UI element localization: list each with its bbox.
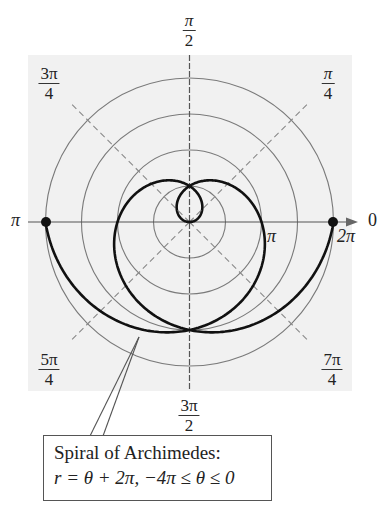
angle-label-five-pi-quarter: 5π 4: [38, 352, 59, 387]
angle-label-pi: π: [11, 210, 20, 231]
angle-label-num: 3π: [38, 66, 59, 84]
angle-label-three-pi-half: 3π 2: [178, 398, 199, 433]
angle-label-zero: 0: [368, 210, 377, 231]
angle-label-den: 2: [185, 416, 194, 433]
tick-label-two-pi: 2π: [337, 226, 355, 247]
angle-label-num: 7π: [321, 352, 342, 370]
angle-label-three-pi-quarter: 3π 4: [38, 66, 59, 101]
angle-label-den: 2: [185, 31, 194, 48]
angle-label-num: 3π: [178, 398, 199, 416]
equation-callout: Spiral of Archimedes: r = θ + 2π, −4π ≤ …: [43, 435, 272, 501]
tick-label-pi: π: [267, 226, 276, 247]
marked-point-pi: [41, 217, 51, 227]
angle-label-pi-half: π 2: [183, 13, 196, 48]
angle-label-pi-quarter: π 4: [322, 66, 335, 101]
angle-label-seven-pi-quarter: 7π 4: [321, 352, 342, 387]
angle-label-num: π: [183, 13, 196, 31]
angle-label-den: 4: [45, 370, 54, 387]
angle-label-num: 5π: [38, 352, 59, 370]
angle-label-den: 4: [45, 84, 54, 101]
callout-equation: r = θ + 2π, −4π ≤ θ ≤ 0: [54, 465, 271, 490]
angle-label-den: 4: [324, 84, 333, 101]
angle-label-den: 4: [328, 370, 337, 387]
callout-title: Spiral of Archimedes:: [54, 440, 271, 465]
angle-label-num: π: [322, 66, 335, 84]
